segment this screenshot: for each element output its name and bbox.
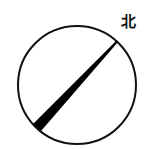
north-label: 北 <box>121 15 136 30</box>
diagram-canvas: 北 <box>0 0 152 149</box>
tapered-pointer <box>33 40 118 131</box>
